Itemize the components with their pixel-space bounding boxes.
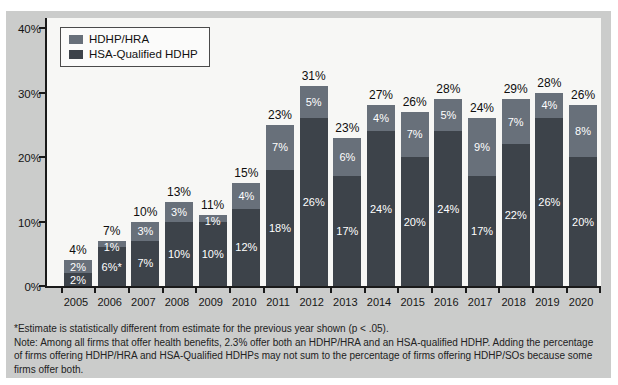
x-axis-tick-2: [128, 288, 130, 293]
x-axis-tick-13: [498, 288, 500, 293]
segment-hdhp-hra-2015: 7%: [401, 112, 429, 157]
x-axis-tick-14: [532, 288, 534, 293]
segment-label-hsa-qualified-hdhp-2015: 20%: [404, 216, 426, 228]
segment-label-hdhp-hra-2009: 1%: [199, 215, 227, 227]
bar-2014: 27%4%24%: [367, 105, 395, 286]
segment-label-hsa-qualified-hdhp-2010: 12%: [235, 241, 257, 253]
bar-2013: 23%6%17%: [333, 138, 361, 286]
segment-label-hsa-qualified-hdhp-2019: 26%: [538, 196, 560, 208]
segment-hdhp-hra-2007: 3%: [131, 222, 159, 241]
y-axis-label-20: 20%: [8, 152, 41, 164]
bar-2019: 28%4%26%: [535, 93, 563, 287]
x-axis-tick-12: [465, 288, 467, 293]
segment-hdhp-hra-2009: 1%: [199, 215, 227, 221]
segment-label-hdhp-hra-2010: 4%: [238, 190, 254, 202]
legend-item-hsa-qualified-hdhp: HSA-Qualified HDHP: [69, 48, 198, 60]
legend-item-hdhp-hra: HDHP/HRA: [69, 33, 198, 45]
segment-hsa-qualified-hdhp-2010: 12%: [232, 209, 260, 286]
segment-hdhp-hra-2010: 4%: [232, 183, 260, 209]
total-label-2010: 15%: [234, 166, 258, 180]
segment-label-hsa-qualified-hdhp-2014: 24%: [370, 203, 392, 215]
total-label-2014: 27%: [369, 88, 393, 102]
total-label-2013: 23%: [335, 121, 359, 135]
segment-label-hsa-qualified-hdhp-2016: 24%: [437, 203, 459, 215]
footnote-note: Note: Among all firms that offer health …: [14, 336, 594, 377]
bar-2010: 15%4%12%: [232, 183, 260, 286]
segment-hsa-qualified-hdhp-2014: 24%: [367, 131, 395, 286]
bar-2018: 29%7%22%: [502, 99, 530, 286]
segment-label-hsa-qualified-hdhp-2012: 26%: [303, 196, 325, 208]
x-axis-tick-1: [94, 288, 96, 293]
legend: HDHP/HRA HSA-Qualified HDHP: [60, 27, 210, 67]
x-axis-tick-11: [431, 288, 433, 293]
segment-label-hsa-qualified-hdhp-2011: 18%: [269, 222, 291, 234]
segment-label-hdhp-hra-2006: 1%: [98, 241, 126, 253]
total-label-2017: 24%: [470, 101, 494, 115]
segment-label-hdhp-hra-2007: 3%: [137, 225, 153, 237]
segment-label-hdhp-hra-2011: 7%: [272, 141, 288, 153]
x-axis-tick-6: [263, 288, 265, 293]
segment-hsa-qualified-hdhp-2015: 20%: [401, 157, 429, 286]
legend-swatch-hsa-qualified-hdhp-icon: [69, 50, 83, 59]
x-axis-tick-9: [364, 288, 366, 293]
x-axis-tick-3: [162, 288, 164, 293]
x-axis-tick-16: [599, 288, 601, 293]
segment-hdhp-hra-2008: 3%: [165, 202, 193, 221]
bar-2011: 23%7%18%: [266, 125, 294, 286]
total-label-2005: 4%: [69, 243, 86, 257]
legend-label-hsa-qualified-hdhp: HSA-Qualified HDHP: [89, 48, 198, 60]
total-label-2009: 11%: [201, 198, 224, 212]
footnote-asterisk: *Estimate is statistically different fro…: [14, 322, 594, 336]
total-label-2019: 28%: [537, 76, 561, 90]
segment-hdhp-hra-2019: 4%: [535, 93, 563, 119]
total-label-2012: 31%: [302, 69, 326, 83]
total-label-2006: 7%: [103, 224, 120, 238]
segment-label-hsa-qualified-hdhp-2005: 2%: [70, 274, 86, 286]
segment-hdhp-hra-2016: 5%: [434, 99, 462, 131]
bar-2005: 4%2%2%: [64, 260, 92, 286]
segment-label-hdhp-hra-2014: 4%: [373, 112, 389, 124]
segment-label-hsa-qualified-hdhp-2007: 7%: [137, 257, 153, 269]
segment-label-hsa-qualified-hdhp-2006: 6%*: [102, 261, 122, 273]
x-axis-tick-10: [397, 288, 399, 293]
x-axis-tick-7: [296, 288, 298, 293]
total-label-2018: 29%: [504, 82, 528, 96]
x-axis-tick-0: [61, 288, 63, 293]
segment-hsa-qualified-hdhp-2017: 17%: [468, 176, 496, 286]
segment-label-hdhp-hra-2008: 3%: [171, 206, 187, 218]
segment-hdhp-hra-2020: 8%: [569, 105, 597, 157]
bar-2015: 26%7%20%: [401, 112, 429, 286]
segment-label-hsa-qualified-hdhp-2018: 22%: [505, 209, 527, 221]
x-axis-tick-5: [229, 288, 231, 293]
segment-hsa-qualified-hdhp-2013: 17%: [333, 176, 361, 286]
bar-2012: 31%5%26%: [300, 86, 328, 286]
segment-hsa-qualified-hdhp-2019: 26%: [535, 118, 563, 286]
segment-label-hsa-qualified-hdhp-2017: 17%: [471, 225, 493, 237]
y-axis-label-30: 30%: [8, 88, 41, 100]
segment-label-hdhp-hra-2019: 4%: [541, 99, 557, 111]
bar-2007: 10%3%7%: [131, 222, 159, 287]
segment-label-hsa-qualified-hdhp-2008: 10%: [168, 248, 190, 260]
segment-hsa-qualified-hdhp-2006: 6%*: [98, 247, 126, 286]
chart-panel: HDHP/HRA HSA-Qualified HDHP 4%2%2%7%1%6%…: [6, 11, 611, 378]
footnotes: *Estimate is statistically different fro…: [14, 322, 594, 376]
legend-label-hdhp-hra: HDHP/HRA: [89, 33, 149, 45]
bar-2017: 24%9%17%: [468, 118, 496, 286]
segment-hdhp-hra-2017: 9%: [468, 118, 496, 176]
x-axis-tick-8: [330, 288, 332, 293]
segment-hsa-qualified-hdhp-2007: 7%: [131, 241, 159, 286]
legend-swatch-hdhp-hra-icon: [69, 35, 83, 44]
segment-label-hsa-qualified-hdhp-2020: 20%: [572, 216, 594, 228]
segment-hsa-qualified-hdhp-2020: 20%: [569, 157, 597, 286]
segment-hsa-qualified-hdhp-2008: 10%: [165, 222, 193, 287]
segment-label-hsa-qualified-hdhp-2013: 17%: [336, 225, 358, 237]
x-axis-tick-15: [566, 288, 568, 293]
y-axis-label-40: 40%: [8, 23, 41, 35]
segment-label-hdhp-hra-2016: 5%: [440, 109, 456, 121]
total-label-2020: 26%: [571, 88, 595, 102]
segment-hsa-qualified-hdhp-2018: 22%: [502, 144, 530, 286]
x-axis-tick-4: [195, 288, 197, 293]
segment-hsa-qualified-hdhp-2005: 2%: [64, 273, 92, 286]
bar-2006: 7%1%6%*: [98, 241, 126, 286]
plot-area: HDHP/HRA HSA-Qualified HDHP 4%2%2%7%1%6%…: [45, 18, 601, 288]
